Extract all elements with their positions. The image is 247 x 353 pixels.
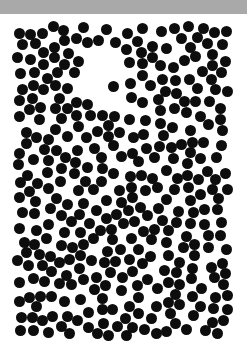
dot xyxy=(14,192,25,203)
canvas-label: Dot pattern xyxy=(0,14,1,15)
dot xyxy=(192,83,203,94)
dot xyxy=(59,227,70,238)
dot xyxy=(195,153,206,164)
dot xyxy=(149,152,160,163)
dot xyxy=(14,148,25,159)
dot xyxy=(14,111,25,122)
dot xyxy=(75,250,86,261)
dot xyxy=(188,310,199,321)
dot xyxy=(56,210,67,221)
dot xyxy=(59,59,70,70)
dot xyxy=(202,38,213,49)
dot xyxy=(186,273,197,284)
dot xyxy=(206,262,217,273)
dot xyxy=(212,328,223,339)
dot xyxy=(78,198,89,209)
dot xyxy=(37,28,48,39)
dot xyxy=(124,254,135,265)
dot xyxy=(217,125,228,136)
dot xyxy=(103,330,114,341)
dot xyxy=(152,283,163,294)
dot xyxy=(14,223,25,234)
top-bar xyxy=(0,0,247,14)
dot xyxy=(13,159,24,170)
dot xyxy=(108,81,119,92)
dot xyxy=(92,126,103,137)
dot xyxy=(198,137,209,148)
dot xyxy=(190,96,201,107)
dot xyxy=(100,280,111,291)
dot xyxy=(123,205,134,216)
dot xyxy=(115,244,126,255)
dot xyxy=(161,237,172,248)
dot xyxy=(31,225,42,236)
dot xyxy=(159,265,170,276)
dot xyxy=(28,154,39,165)
dot xyxy=(182,158,193,169)
dot xyxy=(170,289,181,300)
dot xyxy=(129,216,140,227)
dot xyxy=(85,110,96,121)
dot xyxy=(156,26,167,37)
dot xyxy=(179,55,190,66)
dot xyxy=(108,168,119,179)
dot xyxy=(213,193,224,204)
dot xyxy=(215,114,226,125)
dot xyxy=(96,176,107,187)
dot xyxy=(60,152,71,163)
dot xyxy=(171,267,182,278)
dot xyxy=(106,224,117,235)
dot xyxy=(97,293,108,304)
dot xyxy=(62,311,73,322)
dot xyxy=(12,255,23,266)
dot xyxy=(14,296,25,307)
dot xyxy=(138,129,149,140)
dot xyxy=(38,59,49,70)
dot xyxy=(170,318,181,329)
dot xyxy=(41,233,52,244)
dot xyxy=(185,218,196,229)
dot xyxy=(207,49,218,60)
dot xyxy=(17,39,28,50)
dot xyxy=(27,93,38,104)
dot xyxy=(86,255,97,266)
dot xyxy=(217,258,228,269)
dot xyxy=(218,279,229,290)
dot xyxy=(43,155,54,166)
dot xyxy=(66,279,77,290)
dot xyxy=(108,140,119,151)
dot xyxy=(181,231,192,242)
dot xyxy=(166,142,177,153)
dot xyxy=(126,233,137,244)
dot xyxy=(32,178,43,189)
dot xyxy=(29,208,40,219)
dot xyxy=(31,132,42,143)
dot xyxy=(15,177,26,188)
dot xyxy=(114,185,125,196)
dot xyxy=(210,174,221,185)
dot xyxy=(217,39,228,50)
dot xyxy=(51,193,62,204)
dot xyxy=(125,78,136,89)
dot xyxy=(103,120,114,131)
dot xyxy=(174,257,185,268)
dot xyxy=(121,44,132,55)
dot xyxy=(136,170,147,181)
dot xyxy=(25,54,36,65)
dot xyxy=(112,321,123,332)
dot xyxy=(82,99,93,110)
dot xyxy=(24,104,35,115)
dot xyxy=(82,37,93,48)
dot xyxy=(195,111,206,122)
dot xyxy=(157,74,168,85)
dot xyxy=(15,68,26,79)
dot xyxy=(107,304,118,315)
dot xyxy=(173,206,184,217)
dot xyxy=(102,246,113,257)
dot xyxy=(155,118,166,129)
dot xyxy=(69,168,80,179)
dot xyxy=(211,152,222,163)
dot xyxy=(142,274,153,285)
dot xyxy=(193,174,204,185)
dot xyxy=(171,217,182,228)
